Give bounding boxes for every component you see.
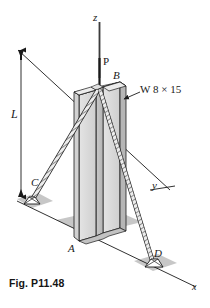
- section-label: W 8 × 15: [140, 84, 181, 95]
- axis-label-x: x: [192, 282, 196, 292]
- column-web: [96, 87, 103, 236]
- point-label-a: A: [68, 243, 75, 254]
- point-label-c: C: [31, 177, 38, 188]
- structural-diagram: [0, 0, 210, 308]
- point-label-b: B: [113, 70, 120, 81]
- load-label-p: P: [103, 56, 109, 67]
- dimension-line-l: [18, 50, 24, 197]
- figure-caption: Fig. P11.48: [9, 277, 64, 289]
- axis-label-y: y: [152, 180, 157, 191]
- point-label-d: D: [154, 248, 162, 259]
- axis-label-z: z: [93, 12, 97, 23]
- dimension-label-l: L: [11, 108, 18, 120]
- figure-container: z P B W 8 × 15 L y C A D x Fig. P11.48: [0, 0, 210, 308]
